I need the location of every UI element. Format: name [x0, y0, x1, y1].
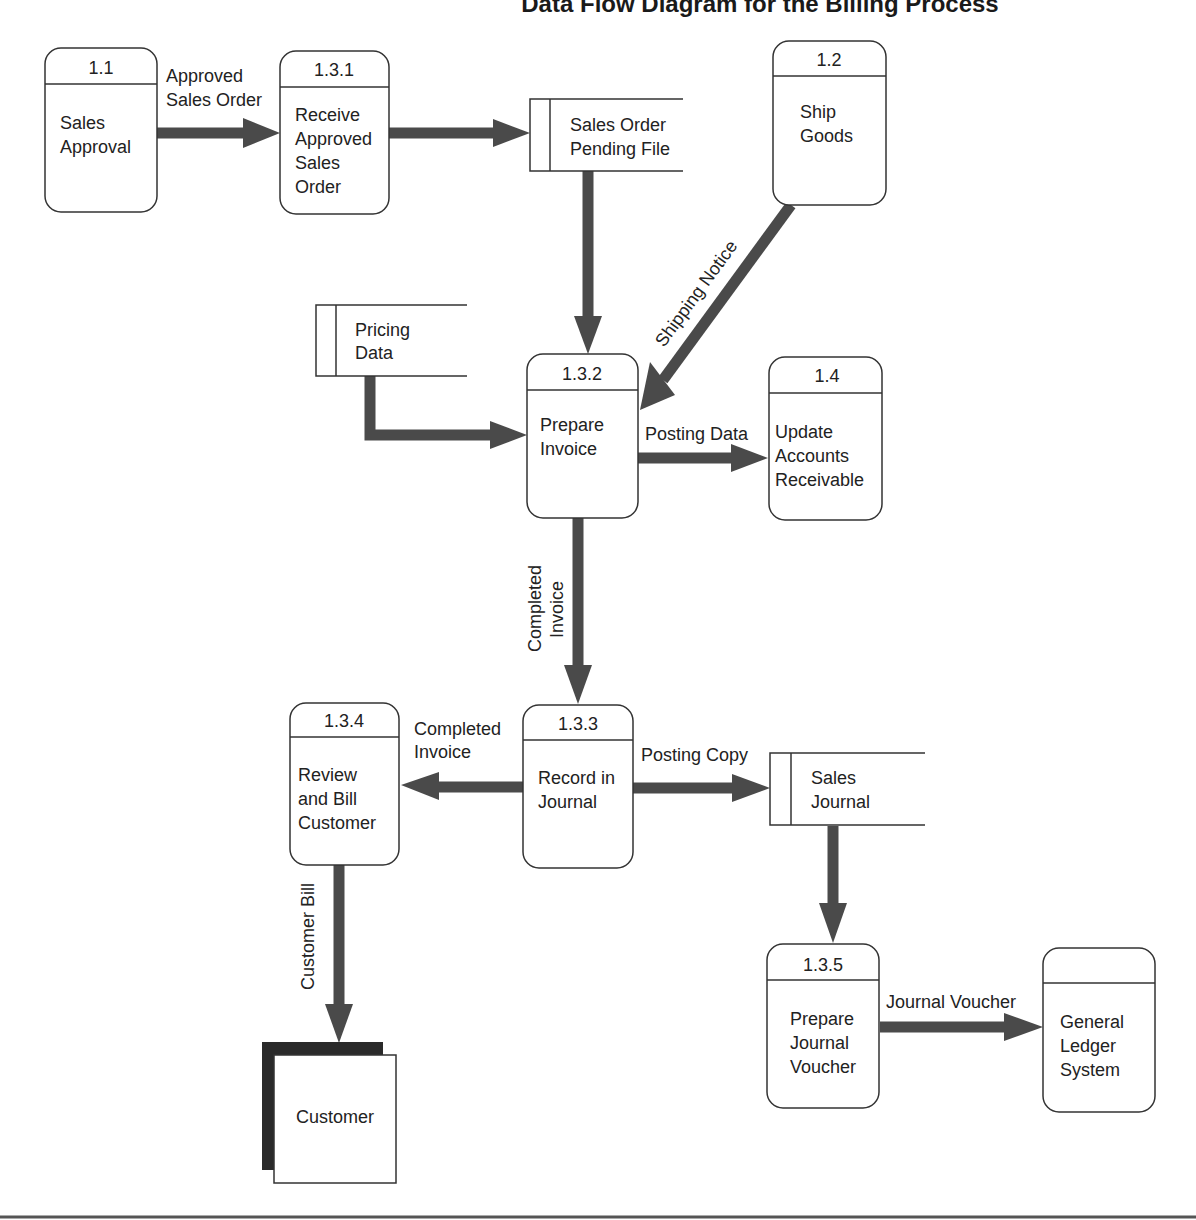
datastore-label-line: Sales Order — [570, 115, 666, 135]
datastore-label-line: Journal — [811, 792, 870, 812]
flow-label: Completed — [525, 565, 545, 652]
process-label-line: Journal — [538, 792, 597, 812]
flow-pricing-data — [370, 376, 527, 449]
flow-sales-journal-to-voucher — [819, 826, 847, 943]
process-id: 1.1 — [88, 58, 113, 78]
process-1-3-4-review-and-bill-customer[interactable]: 1.3.4 Review and Bill Customer — [290, 703, 399, 865]
process-label-line: Update — [775, 422, 833, 442]
datastore-sales-order-pending-file[interactable]: Sales Order Pending File — [530, 99, 683, 171]
process-label-line: Voucher — [790, 1057, 856, 1077]
diagram-title: Data Flow Diagram for the Billing Proces… — [521, 0, 998, 17]
datastore-pricing-data[interactable]: Pricing Data — [316, 305, 467, 376]
process-label-line: Customer — [298, 813, 376, 833]
process-id: 1.3.3 — [558, 714, 598, 734]
process-1-4-update-accounts-receivable[interactable]: 1.4 Update Accounts Receivable — [769, 357, 882, 520]
flow-completed-invoice-down — [564, 518, 592, 704]
flow-label: Posting Data — [645, 424, 749, 444]
process-label-line: Accounts — [775, 446, 849, 466]
process-label-line: Approval — [60, 137, 131, 157]
process-label-line: Review — [298, 765, 358, 785]
process-id: 1.3.2 — [562, 364, 602, 384]
flow-label: Journal Voucher — [886, 992, 1016, 1012]
process-label-line: Order — [295, 177, 341, 197]
process-label-line: Prepare — [790, 1009, 854, 1029]
process-label-line: Prepare — [540, 415, 604, 435]
billing-data-flow-diagram: Data Flow Diagram for the Billing Proces… — [0, 0, 1196, 1220]
flow-posting-copy — [633, 774, 770, 802]
process-label-line: Receivable — [775, 470, 864, 490]
datastore-sales-journal[interactable]: Sales Journal — [770, 753, 925, 825]
process-label-line: and Bill — [298, 789, 357, 809]
process-1-2-ship-goods[interactable]: 1.2 Ship Goods — [773, 41, 886, 205]
process-label-line: Journal — [790, 1033, 849, 1053]
flow-posting-data — [638, 444, 768, 472]
datastore-label-line: Pricing — [355, 320, 410, 340]
flow-to-pending-file — [389, 119, 530, 147]
datastore-label-line: Pending File — [570, 139, 670, 159]
process-label-line: General — [1060, 1012, 1124, 1032]
flow-label: Invoice — [547, 581, 567, 638]
entity-label: Customer — [296, 1107, 374, 1127]
external-entity-customer[interactable]: Customer — [262, 1042, 396, 1183]
process-label-line: Ledger — [1060, 1036, 1116, 1056]
flow-label: Completed — [414, 719, 501, 739]
flow-label: Approved — [166, 66, 243, 86]
process-1-3-1-receive-approved-sales-order[interactable]: 1.3.1 Receive Approved Sales Order — [280, 51, 389, 214]
flow-customer-bill — [325, 865, 353, 1043]
process-1-3-5-prepare-journal-voucher[interactable]: 1.3.5 Prepare Journal Voucher — [767, 944, 879, 1108]
process-label-line: Sales — [60, 113, 105, 133]
process-1-3-2-prepare-invoice[interactable]: 1.3.2 Prepare Invoice — [527, 354, 638, 518]
process-1-3-3-record-in-journal[interactable]: 1.3.3 Record in Journal — [523, 705, 633, 868]
flow-completed-invoice-left — [401, 772, 523, 800]
process-label-line: Receive — [295, 105, 360, 125]
flow-journal-voucher — [880, 1013, 1043, 1041]
flow-approved-sales-order — [157, 118, 280, 148]
process-id: 1.3.1 — [314, 60, 354, 80]
flow-label: Customer Bill — [298, 883, 318, 990]
process-id: 1.2 — [816, 50, 841, 70]
process-1-1-sales-approval[interactable]: 1.1 Sales Approval — [45, 48, 157, 212]
process-label-line: Goods — [800, 126, 853, 146]
process-label-line: Record in — [538, 768, 615, 788]
process-label-line: Sales — [295, 153, 340, 173]
flow-label: Invoice — [414, 742, 471, 762]
process-general-ledger-system[interactable]: General Ledger System — [1043, 948, 1155, 1112]
process-label-line: Ship — [800, 102, 836, 122]
process-id: 1.3.4 — [324, 711, 364, 731]
process-label-line: Approved — [295, 129, 372, 149]
process-label-line: Invoice — [540, 439, 597, 459]
process-id: 1.3.5 — [803, 955, 843, 975]
process-label-line: System — [1060, 1060, 1120, 1080]
flow-label: Sales Order — [166, 90, 262, 110]
flow-pending-file-to-prepare-invoice — [574, 171, 602, 354]
process-id: 1.4 — [814, 366, 839, 386]
datastore-label-line: Sales — [811, 768, 856, 788]
flow-label: Posting Copy — [641, 745, 748, 765]
datastore-label-line: Data — [355, 343, 394, 363]
